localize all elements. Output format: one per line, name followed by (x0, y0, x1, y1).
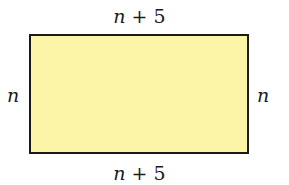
rectangle-shape (29, 34, 249, 154)
bottom-side-label: n + 5 (0, 162, 279, 184)
left-label-variable: n (7, 84, 19, 106)
right-label-variable: n (257, 84, 269, 106)
bottom-label-expression: + 5 (126, 162, 166, 184)
top-label-variable: n (113, 5, 125, 27)
top-side-label: n + 5 (0, 5, 279, 27)
top-label-expression: + 5 (126, 5, 166, 27)
bottom-label-variable: n (113, 162, 125, 184)
left-side-label: n (7, 84, 19, 106)
right-side-label: n (257, 84, 269, 106)
